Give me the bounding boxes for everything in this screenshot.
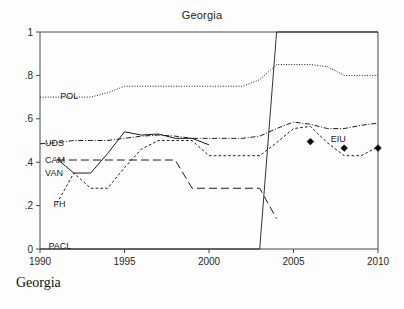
series-labels-group: POLUDSCAMVANFHPACLEIU: [45, 91, 346, 251]
series-line-pol: [40, 65, 378, 98]
series-label-fh: FH: [54, 199, 66, 209]
x-tick-label: 2000: [198, 256, 221, 267]
chart-plot-area: 0.2.4.6.8119901995200020052010 POLUDSCAM…: [0, 0, 404, 309]
x-tick-label: 2005: [282, 256, 305, 267]
y-tick-label: 1: [27, 27, 33, 38]
series-label-pol: POL: [60, 91, 78, 101]
y-tick-label: .6: [25, 113, 34, 124]
series-label-cam: CAM: [45, 155, 65, 165]
eiu-marker: [375, 145, 382, 152]
figure-container: Georgia 0.2.4.6.8119901995200020052010 P…: [0, 0, 404, 309]
y-tick-label: .8: [25, 70, 34, 81]
x-tick-label: 1990: [29, 256, 52, 267]
y-tick-label: .4: [25, 157, 34, 168]
y-tick-label: .2: [25, 200, 34, 211]
y-tick-label: 0: [27, 244, 33, 255]
series-label-eiu: EIU: [331, 134, 346, 144]
series-label-van: VAN: [45, 168, 63, 178]
series-line-uds: [40, 122, 378, 144]
x-tick-label: 2010: [367, 256, 390, 267]
series-line-van: [57, 132, 209, 173]
x-tick-label: 1995: [113, 256, 136, 267]
eiu-marker: [341, 145, 348, 152]
series-label-uds: UDS: [45, 138, 64, 148]
series-line-cam: [57, 160, 277, 219]
figure-caption: Georgia: [16, 275, 61, 291]
series-label-pacl: PACL: [48, 241, 71, 251]
eiu-marker: [307, 138, 314, 145]
axes-group: 0.2.4.6.8119901995200020052010: [25, 27, 390, 268]
